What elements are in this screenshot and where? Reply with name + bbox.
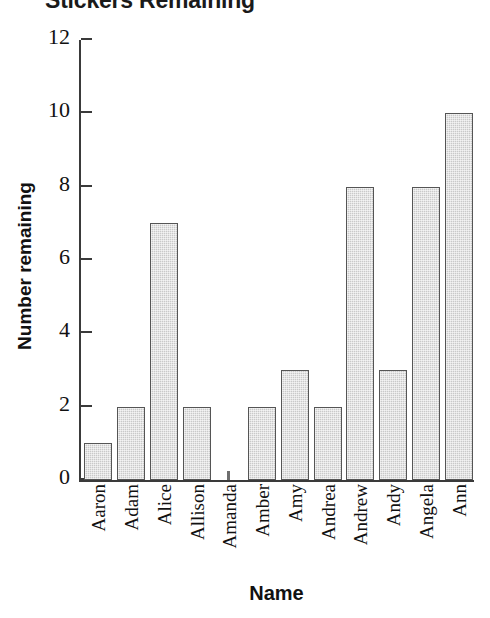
bar-rect xyxy=(117,407,145,480)
x-tick-label-text: Ann xyxy=(449,484,468,517)
bar-rect xyxy=(379,370,407,480)
y-tick-label: 12 xyxy=(48,26,70,48)
plot-area: 024681012 xyxy=(79,40,474,480)
x-axis-title: Name xyxy=(79,582,474,605)
x-tick-label-andrea: Andrea xyxy=(314,484,342,576)
bar-rect xyxy=(183,407,211,480)
x-tick-label-allison: Allison xyxy=(183,484,211,576)
x-tick-label-angela: Angela xyxy=(412,484,440,576)
bar-amanda xyxy=(215,40,243,480)
x-axis-tick-labels: AaronAdamAliceAllisonAmandaAmberAmyAndre… xyxy=(81,484,474,576)
x-tick-label-text: Andrew xyxy=(351,484,370,545)
x-tick-label-amber: Amber xyxy=(248,484,276,576)
bar-rect xyxy=(445,113,473,480)
x-tick-label-text: Amy xyxy=(285,484,304,522)
bar-angela xyxy=(412,40,440,480)
bar-alice xyxy=(150,40,178,480)
chart-title: Stickers Remaining xyxy=(45,0,445,14)
bar-rect xyxy=(248,407,276,480)
bar-rect xyxy=(227,471,230,480)
bar-series xyxy=(81,40,474,480)
bar-rect xyxy=(346,187,374,480)
bar-rect xyxy=(314,407,342,480)
y-tick-label: 2 xyxy=(59,393,70,415)
x-tick-label-alice: Alice xyxy=(150,484,178,576)
x-tick-label-text: Alice xyxy=(154,484,173,525)
bar-ann xyxy=(445,40,473,480)
y-tick-label: 6 xyxy=(59,246,70,268)
y-tick-label: 0 xyxy=(59,466,70,488)
bar-andy xyxy=(379,40,407,480)
x-axis-line xyxy=(79,480,474,482)
y-axis-title: Number remaining xyxy=(14,166,36,366)
x-tick-label-text: Angela xyxy=(416,484,435,539)
bar-rect xyxy=(150,223,178,480)
x-tick-label-text: Amber xyxy=(253,484,272,537)
x-tick-label-andy: Andy xyxy=(379,484,407,576)
x-tick-label-andrew: Andrew xyxy=(346,484,374,576)
bar-allison xyxy=(183,40,211,480)
x-tick-label-text: Adam xyxy=(122,484,141,530)
x-tick-label-aaron: Aaron xyxy=(84,484,112,576)
x-tick-label-text: Amanda xyxy=(220,484,239,548)
bar-aaron xyxy=(84,40,112,480)
y-tick-label: 8 xyxy=(59,173,70,195)
bar-adam xyxy=(117,40,145,480)
bar-amy xyxy=(281,40,309,480)
bar-rect xyxy=(281,370,309,480)
bar-andrew xyxy=(346,40,374,480)
bar-andrea xyxy=(314,40,342,480)
x-tick-label-text: Allison xyxy=(187,484,206,540)
x-tick-label-amanda: Amanda xyxy=(215,484,243,576)
bar-chart: Stickers Remaining Number remaining 0246… xyxy=(0,0,490,618)
x-tick-label-amy: Amy xyxy=(281,484,309,576)
x-tick-label-text: Aaron xyxy=(89,484,108,531)
bar-amber xyxy=(248,40,276,480)
bar-rect xyxy=(84,443,112,480)
x-tick-label-text: Andy xyxy=(384,484,403,526)
x-tick-label-text: Andrea xyxy=(318,484,337,540)
x-tick-label-adam: Adam xyxy=(117,484,145,576)
bar-rect xyxy=(412,187,440,480)
y-tick-label: 10 xyxy=(48,99,70,121)
x-tick-label-ann: Ann xyxy=(445,484,473,576)
y-tick-label: 4 xyxy=(59,319,70,341)
